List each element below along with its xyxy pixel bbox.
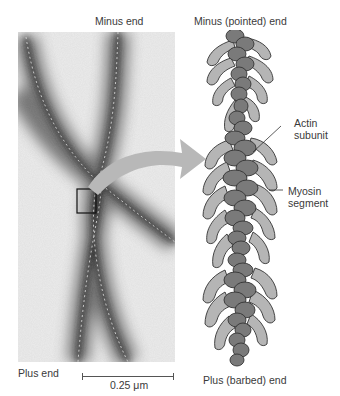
model-minus-end-label: Minus (pointed) end xyxy=(194,15,287,27)
actin-filament-model xyxy=(195,30,285,370)
actin-subunit-label: Actin subunit xyxy=(294,117,328,141)
scale-bar-label: 0.25 μm xyxy=(110,379,148,391)
micrograph-minus-end-label: Minus end xyxy=(95,15,143,27)
myosin-segment-label: Myosin segment xyxy=(288,185,328,209)
micrograph-plus-end-label: Plus end xyxy=(18,367,59,379)
model-plus-end-label: Plus (barbed) end xyxy=(203,374,286,386)
zoom-arrow-icon xyxy=(70,125,210,205)
